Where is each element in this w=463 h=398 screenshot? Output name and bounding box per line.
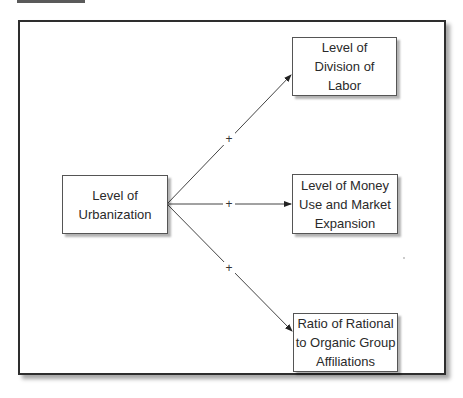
node-money-use: Level of Money Use and Market Expansion [292, 174, 398, 234]
node-division-of-labor: Level of Division of Labor [292, 37, 397, 96]
node-urbanization: Level of Urbanization [62, 175, 168, 234]
edge-sign-rational-organic: + [223, 262, 235, 274]
figure-header-tab [17, 0, 85, 3]
print-speck [403, 257, 405, 259]
edge-sign-division-of-labor: + [223, 133, 235, 145]
edge-sign-money-use: + [223, 198, 235, 210]
node-rational-organic: Ratio of Rational to Organic Group Affil… [293, 313, 398, 372]
